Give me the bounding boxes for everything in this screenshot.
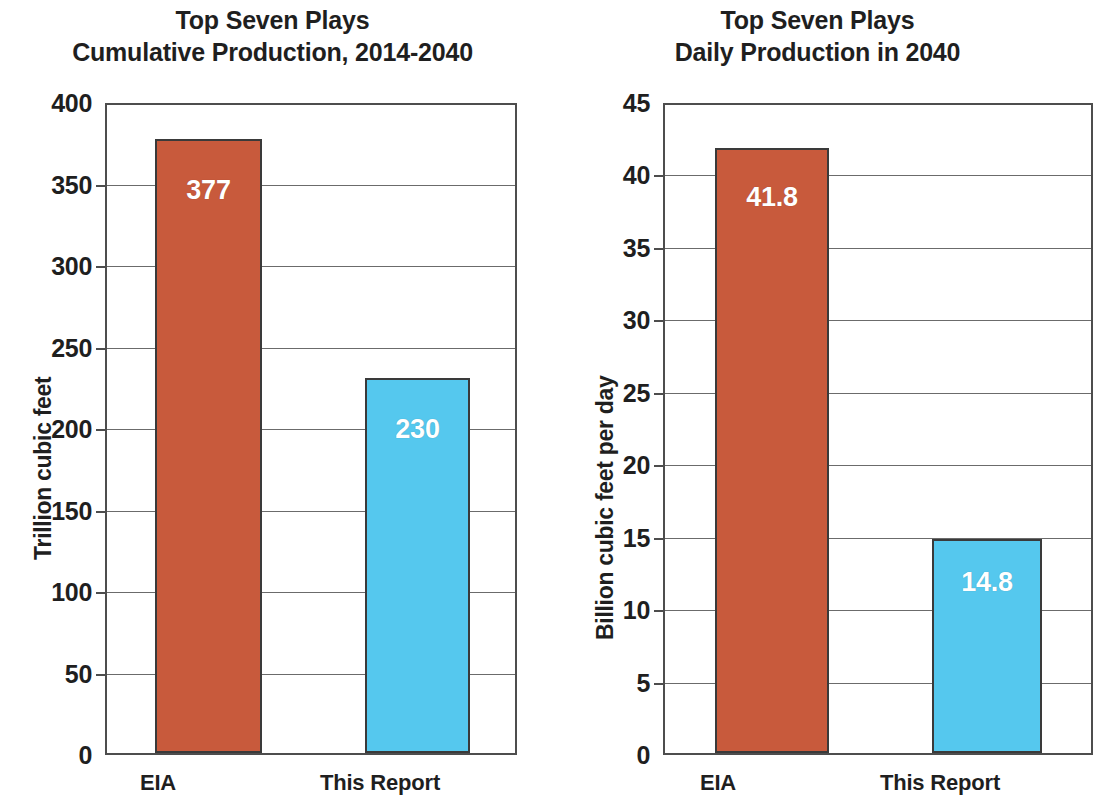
y-tick-mark-left-200	[96, 429, 105, 431]
bar-value-left-eia: 377	[157, 175, 260, 206]
y-tick-mark-left-350	[96, 185, 105, 187]
y-tick-label-right-5: 5	[558, 668, 650, 697]
y-tick-mark-right-25	[654, 393, 663, 395]
y-tick-label-left-100: 100	[0, 578, 92, 607]
plot-area-left: 377 230	[105, 103, 517, 755]
y-tick-mark-right-5	[654, 683, 663, 685]
chart-title-left: Top Seven Plays Cumulative Production, 2…	[0, 4, 545, 68]
x-tick-label-right-eia: EIA	[668, 770, 768, 796]
x-tick-label-left-this-report: This Report	[305, 770, 455, 796]
y-tick-label-left-50: 50	[0, 659, 92, 688]
y-tick-label-left-250: 250	[0, 333, 92, 362]
y-tick-label-right-10: 10	[558, 596, 650, 625]
y-tick-label-left-0: 0	[0, 741, 92, 770]
chart-panel-cumulative-production: Top Seven Plays Cumulative Production, 2…	[0, 0, 545, 800]
y-tick-label-left-350: 350	[0, 170, 92, 199]
y-tick-label-right-45: 45	[558, 89, 650, 118]
y-tick-mark-left-250	[96, 348, 105, 350]
bar-value-right-eia: 41.8	[717, 182, 827, 213]
y-tick-mark-left-100	[96, 592, 105, 594]
y-tick-label-right-0: 0	[558, 741, 650, 770]
y-tick-mark-right-30	[654, 320, 663, 322]
x-tick-label-left-eia: EIA	[108, 770, 208, 796]
y-tick-mark-right-40	[654, 175, 663, 177]
x-tick-label-right-this-report: This Report	[860, 770, 1020, 796]
y-tick-mark-right-10	[654, 610, 663, 612]
plot-area-right: 41.8 14.8	[663, 103, 1093, 755]
chart-title-right-line2: Daily Production in 2040	[545, 36, 1090, 68]
y-tick-label-right-30: 30	[558, 306, 650, 335]
bar-right-eia[interactable]: 41.8	[715, 148, 829, 754]
bar-value-left-this-report: 230	[367, 414, 468, 445]
y-tick-label-left-150: 150	[0, 496, 92, 525]
y-tick-label-right-40: 40	[558, 161, 650, 190]
y-tick-label-left-200: 200	[0, 415, 92, 444]
y-tick-label-right-20: 20	[558, 451, 650, 480]
chart-title-right: Top Seven Plays Daily Production in 2040	[545, 4, 1090, 68]
bar-left-eia[interactable]: 377	[155, 139, 262, 753]
bar-value-right-this-report: 14.8	[934, 567, 1040, 598]
y-axis-label-left: Trillion cubic feet	[30, 377, 57, 560]
chart-title-left-line2: Cumulative Production, 2014-2040	[0, 36, 545, 68]
bar-left-this-report[interactable]: 230	[365, 378, 470, 753]
y-tick-mark-left-150	[96, 511, 105, 513]
y-tick-mark-right-15	[654, 538, 663, 540]
y-tick-mark-right-35	[654, 248, 663, 250]
bar-right-this-report[interactable]: 14.8	[932, 539, 1042, 753]
y-tick-label-left-400: 400	[0, 89, 92, 118]
y-tick-label-left-300: 300	[0, 252, 92, 281]
chart-title-right-line1: Top Seven Plays	[721, 6, 915, 34]
y-tick-label-right-15: 15	[558, 523, 650, 552]
chart-title-left-line1: Top Seven Plays	[176, 6, 370, 34]
y-tick-label-right-35: 35	[558, 233, 650, 262]
y-tick-label-right-25: 25	[558, 378, 650, 407]
y-tick-mark-left-50	[96, 674, 105, 676]
y-tick-mark-right-20	[654, 465, 663, 467]
y-tick-mark-left-300	[96, 266, 105, 268]
